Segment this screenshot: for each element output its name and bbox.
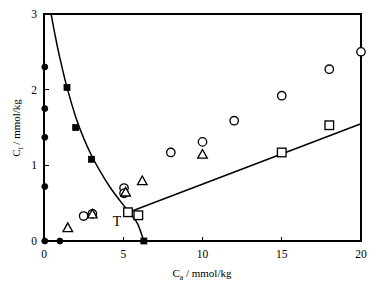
data-point-open-square (134, 211, 143, 220)
x-tick-label: 5 (120, 248, 126, 260)
x-tick-label: 15 (276, 248, 288, 260)
curve-descending-curve (51, 14, 144, 241)
series-open-square (124, 121, 334, 220)
x-tick-label: 20 (355, 248, 367, 260)
fitted-curves (51, 14, 361, 241)
data-point-open-circle (357, 48, 365, 56)
x-axis-title: Ca / mmol/kg (173, 267, 232, 282)
data-point-filled-square (89, 156, 95, 162)
data-point-open-circle (198, 138, 206, 146)
y-axis: 0123 (31, 8, 49, 247)
chart-container: 05101520 0123 T Ca / mmol/kg Ct / mmol/k… (0, 0, 376, 291)
data-point-filled-circle (42, 106, 48, 112)
y-axis-tick-labels: 0123 (31, 8, 37, 247)
data-point-open-circle (278, 92, 286, 100)
data-point-filled-square (73, 125, 79, 131)
x-axis-tick-labels: 05101520 (41, 248, 367, 260)
data-point-filled-circle (57, 238, 63, 244)
y-tick-label: 1 (31, 159, 37, 171)
y-tick-label: 0 (31, 235, 37, 247)
data-point-open-square (277, 148, 286, 157)
data-series-markers (42, 48, 365, 244)
y-axis-title: Ct / mmol/kg (10, 99, 25, 157)
data-point-open-square (124, 208, 133, 217)
x-tick-label: 10 (197, 248, 209, 260)
data-point-open-triangle (63, 223, 73, 232)
x-tick-label: 0 (41, 248, 47, 260)
curve-ascending-line (125, 124, 361, 214)
data-point-filled-circle (42, 184, 48, 190)
data-point-open-triangle (198, 150, 208, 159)
plot-annotations: T (113, 214, 122, 229)
data-point-filled-circle (42, 64, 48, 70)
y-axis-ticks (44, 14, 49, 241)
data-point-open-circle (167, 148, 175, 156)
data-point-filled-square (141, 238, 147, 244)
data-point-open-square (325, 121, 334, 130)
data-point-filled-square (64, 84, 70, 90)
data-point-filled-circle (42, 134, 48, 140)
series-filled-circle (42, 64, 63, 244)
data-point-open-circle (230, 116, 238, 124)
plot-frame (44, 14, 361, 241)
y-tick-label: 3 (31, 8, 37, 20)
data-point-open-circle (325, 65, 333, 73)
scatter-plot: 05101520 0123 T Ca / mmol/kg Ct / mmol/k… (0, 0, 376, 291)
data-point-open-circle (79, 212, 87, 220)
y-tick-label: 2 (31, 84, 37, 96)
data-point-filled-circle (42, 238, 48, 244)
annotation-T: T (113, 214, 122, 229)
data-point-open-triangle (137, 176, 147, 185)
